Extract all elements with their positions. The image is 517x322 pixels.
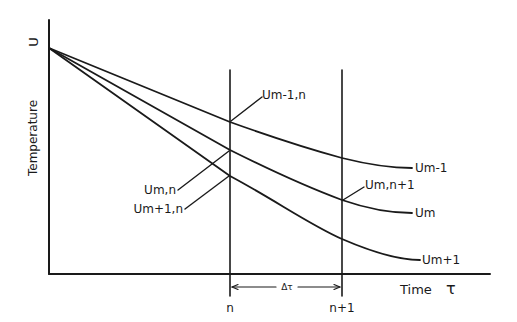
point-label-um-n-plus-1: Um,n+1 (365, 178, 415, 192)
curve-label-um: Um (415, 206, 435, 220)
curve-label-um-plus-1: Um+1 (422, 253, 460, 267)
time-step-n-label: n (226, 301, 234, 315)
point-label-um-minus-1-n: Um-1,n (262, 88, 306, 102)
leader-um-plus-1-n (185, 176, 229, 209)
y-axis-symbol: U (26, 37, 41, 47)
x-axis-label: Time (399, 282, 432, 297)
point-label-um-n: Um,n (144, 183, 176, 197)
delta-tau-label: Δτ (281, 282, 293, 292)
curve-label-um-minus-1: Um-1 (415, 161, 447, 175)
y-axis-label: Temperature (26, 100, 40, 177)
point-label-um-plus-1-n: Um+1,n (133, 202, 183, 216)
x-axis-symbol: τ (446, 279, 456, 298)
delta-tau-dimension: Δτ (232, 282, 340, 292)
leader-um-n-plus-1 (343, 187, 364, 200)
temperature-time-diagram: Δτ U Temperature Um-1,n Um,n Um+1,n Um,n… (0, 0, 517, 322)
leader-um-minus-1-n (231, 97, 262, 121)
time-step-n-plus-1-label: n+1 (329, 301, 354, 315)
